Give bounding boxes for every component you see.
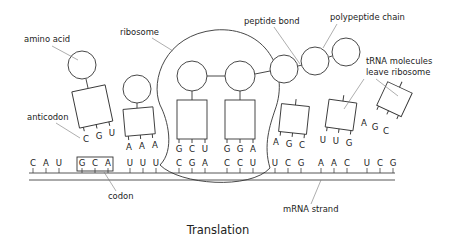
anticodon-base: G [96, 131, 103, 141]
trna-2: A A A [123, 75, 158, 152]
label-trna-leave-1: tRNA molecules [366, 56, 432, 66]
trna-body [72, 85, 113, 128]
trna-body [123, 107, 155, 137]
anticodon-base: A [126, 142, 132, 152]
mrna-base: A [318, 158, 324, 168]
label-amino-acid: amino acid [24, 34, 70, 44]
trna-body [279, 104, 310, 135]
polypeptide-chain [255, 38, 360, 83]
label-mrna-strand: mRNA strand [283, 204, 338, 214]
amino-acid-circle [225, 61, 255, 91]
anticodon-base: A [250, 144, 256, 154]
mrna-base: C [344, 158, 350, 168]
label-anticodon: anticodon [27, 112, 69, 122]
amino-acid-circle [332, 38, 360, 66]
amino-acid-circle [123, 75, 151, 103]
trna-5: A G C [273, 98, 310, 150]
mrna-base: U [364, 158, 370, 168]
mrna-base: C [237, 158, 243, 168]
anticodon-base: U [109, 128, 115, 138]
anticodon-base: C [189, 144, 195, 154]
anticodon-base: G [224, 144, 231, 154]
label-ribosome: ribosome [120, 27, 159, 37]
mrna-ticks [33, 168, 393, 173]
mrna-base: U [272, 158, 278, 168]
trna-body [225, 100, 255, 139]
mrna-bases: C A U G C A U U U C G A C C U U C G A A … [30, 158, 396, 168]
anticodon-base: U [320, 135, 326, 145]
mrna-base: U [153, 158, 159, 168]
diagram-title: Translation [186, 223, 250, 237]
trna-body [325, 99, 357, 131]
anticodon-base: G [346, 138, 353, 148]
trna-7: A G C [361, 76, 415, 136]
anticodon-base: C [299, 140, 305, 150]
anticodon-base: U [333, 136, 339, 146]
mrna-strand: C A U G C A U U U C G A C C U U C G A A … [29, 157, 396, 180]
amino-acid-circle [68, 51, 96, 79]
mrna-base: U [56, 158, 62, 168]
mrna-base: A [331, 158, 337, 168]
mrna-base: A [202, 158, 208, 168]
anticodon-base: G [237, 144, 244, 154]
mrna-base: G [298, 158, 305, 168]
anticodon-base: A [152, 140, 158, 150]
anticodon-base: G [286, 139, 293, 149]
mrna-base: C [224, 158, 230, 168]
mrna-base: A [43, 158, 49, 168]
mrna-base: C [377, 158, 383, 168]
translation-diagram: C A U G C A U U U C G A C C U U C G A A … [0, 0, 449, 237]
trna-body [377, 82, 412, 117]
trna-3: G C U [176, 61, 208, 154]
anticodon-base: A [273, 137, 279, 147]
label-peptide-bond: peptide bond [244, 16, 300, 26]
mrna-base: U [127, 158, 133, 168]
trna-4: G G A [224, 61, 256, 154]
anticodon-base: G [176, 144, 183, 154]
anticodon-base: A [139, 141, 145, 151]
mrna-base: C [176, 158, 182, 168]
trna-6: U U G [320, 93, 358, 148]
anticodon-base: U [202, 144, 208, 154]
anticodon-base: C [83, 134, 89, 144]
label-trna-leave-2: leave ribosome [366, 67, 430, 77]
mrna-base: U [140, 158, 146, 168]
mrna-base: C [30, 158, 36, 168]
mrna-base: A [105, 158, 111, 168]
label-polypeptide-chain: polypeptide chain [330, 12, 405, 22]
mrna-base: C [92, 158, 98, 168]
anticodon-base: G [372, 122, 379, 132]
trna-1: C G U [68, 51, 115, 144]
amino-acid-circle [270, 55, 298, 83]
mrna-base: U [250, 158, 256, 168]
amino-acid-circle [177, 61, 207, 91]
mrna-base: G [390, 158, 397, 168]
mrna-base: C [285, 158, 291, 168]
label-codon: codon [108, 191, 133, 201]
mrna-base: G [189, 158, 196, 168]
mrna-base: G [79, 158, 86, 168]
amino-acid-circle [301, 47, 329, 75]
anticodon-base: A [361, 118, 367, 128]
trna-body [177, 100, 207, 139]
anticodon-base: C [383, 126, 389, 136]
